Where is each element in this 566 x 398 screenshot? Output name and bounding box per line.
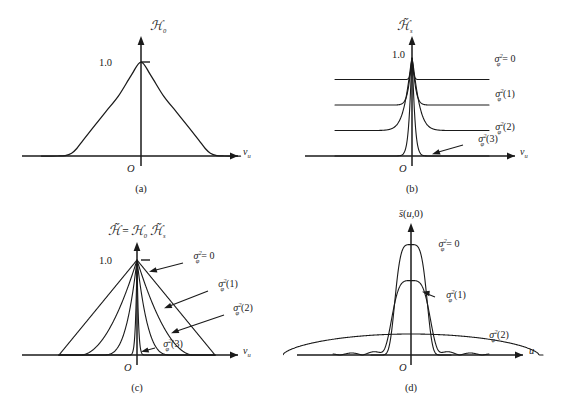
y-tick-label-1.0-c: 1.0	[99, 255, 112, 266]
y-axis-arrowhead-b	[409, 36, 416, 45]
svg-text:σ2φ(1): σ2φ(1)	[446, 288, 465, 303]
panel-caption-a: (a)	[135, 183, 147, 195]
figure-root: ℋ0 1.0 O νu (a) ℋ̃s 1.0	[0, 0, 566, 398]
svg-text:σ2φ= 0: σ2φ= 0	[194, 249, 215, 264]
origin-label-c: O	[124, 362, 132, 373]
series-label-d-sigma0: σ2φ= 0	[439, 237, 460, 252]
panel-d-plot: s̄(u,0) O u σ2φ= 0 σ2φ(1) σ2φ(2)	[283, 199, 566, 398]
y-axis-label-a: ℋ0	[150, 18, 167, 34]
panel-c: ℋ̃=ℋ0ℋ̃s 1.0 O νu σ2φ= 0 σ2φ(1)	[0, 199, 283, 398]
leader-arrowhead-c-sigma0	[149, 267, 157, 272]
svg-text:σ2φ(1): σ2φ(1)	[218, 277, 237, 292]
leader-arrowhead-c-sigma3	[141, 347, 149, 352]
series-label-b-sigma2: σ2φ(2)	[495, 120, 514, 135]
panel-c-plot: ℋ̃=ℋ0ℋ̃s 1.0 O νu σ2φ= 0 σ2φ(1)	[0, 199, 283, 398]
leader-line-c-sigma0	[152, 263, 183, 271]
x-axis-label-c: νu	[243, 345, 251, 358]
series-label-c-sigma1: σ2φ(1)	[164, 277, 238, 308]
series-label-b-sigma3: σ2φ(3)	[432, 132, 498, 154]
leader-arrowhead-c-sigma1	[164, 303, 172, 308]
y-axis-arrowhead-c	[134, 242, 141, 251]
y-axis-label-d: s̄(u,0)	[399, 208, 424, 220]
y-axis-arrowhead-d	[408, 223, 415, 232]
svg-text:σ2φ(1): σ2φ(1)	[495, 87, 514, 102]
panel-caption-c: (c)	[131, 382, 143, 394]
panel-b: ℋ̃s 1.0 O νu σ2φ= 0 σ2φ(1) σ2φ(2)	[283, 0, 566, 199]
x-axis-label-d: u	[529, 345, 534, 356]
origin-label-b: O	[399, 163, 407, 174]
y-tick-label-1.0-a: 1.0	[99, 57, 112, 68]
panel-a: ℋ0 1.0 O νu (a)	[0, 0, 283, 199]
panel-caption-d: (d)	[405, 382, 418, 394]
series-label-c-sigma0: σ2φ= 0	[149, 249, 214, 273]
svg-text:σ2φ= 0: σ2φ= 0	[495, 52, 516, 67]
series-label-d-sigma1: σ2φ(1)	[422, 288, 466, 303]
leader-arrowhead-c-sigma2	[171, 328, 179, 333]
y-axis-label-b: ℋ̃s	[397, 17, 413, 34]
leader-line-c-sigma1	[167, 291, 208, 307]
svg-text:σ2φ= 0: σ2φ= 0	[439, 237, 460, 252]
y-tick-label-1.0-b: 1.0	[392, 49, 405, 60]
series-label-c-sigma3: σ2φ(3)	[141, 337, 183, 352]
y-axis-arrowhead-a	[138, 36, 145, 45]
panel-caption-b: (b)	[406, 183, 419, 195]
panel-d: s̄(u,0) O u σ2φ= 0 σ2φ(1) σ2φ(2)	[283, 199, 566, 398]
series-label-b-sigma0: σ2φ= 0	[495, 52, 516, 67]
x-axis-arrowhead-d	[515, 352, 523, 359]
series-label-b-sigma1: σ2φ(1)	[495, 87, 514, 102]
x-axis-label-a: νu	[243, 146, 251, 159]
svg-text:σ2φ(2): σ2φ(2)	[495, 120, 514, 135]
panel-a-axes	[22, 36, 238, 166]
svg-text:σ2φ(3): σ2φ(3)	[478, 132, 497, 147]
leader-line-c-sigma2	[174, 315, 224, 332]
origin-label-a: O	[127, 163, 135, 174]
panel-b-plot: ℋ̃s 1.0 O νu σ2φ= 0 σ2φ(1) σ2φ(2)	[283, 0, 566, 199]
origin-label-d: O	[399, 362, 407, 373]
panel-title-c: ℋ̃=ℋ0ℋ̃s	[108, 222, 166, 239]
x-axis-label-b: νu	[520, 146, 528, 159]
leader-arrowhead-b-sigma3	[432, 149, 441, 154]
svg-text:σ2φ(3): σ2φ(3)	[163, 337, 182, 352]
svg-text:σ2φ(2): σ2φ(2)	[233, 301, 252, 316]
x-axis-arrowhead-c	[230, 352, 238, 359]
x-axis-arrowhead-b	[507, 153, 515, 160]
panel-a-plot: ℋ0 1.0 O νu (a)	[0, 0, 283, 199]
